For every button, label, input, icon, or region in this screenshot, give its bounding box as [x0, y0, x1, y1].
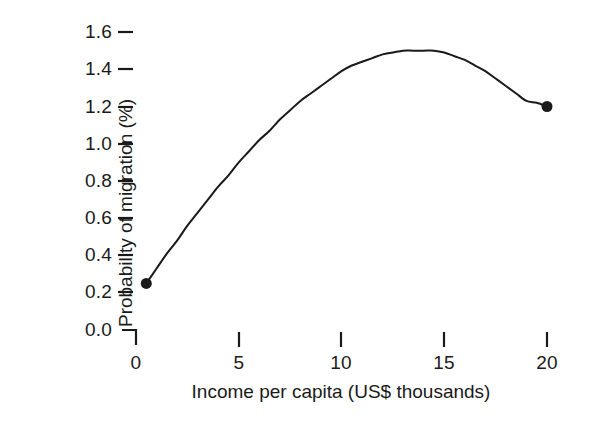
- x-tick-label-20: 20: [536, 352, 558, 374]
- end-point-marker: [542, 101, 553, 112]
- y-tick-label-0-8: 0.8: [64, 170, 112, 192]
- y-tick-label-0-0: 0.0: [64, 319, 112, 341]
- x-axis-title: Income per capita (US$ thousands): [192, 381, 491, 403]
- x-tick-label-5: 5: [234, 352, 245, 374]
- x-tick-label-15: 15: [433, 352, 455, 374]
- axis-corner-bracket: [122, 330, 136, 345]
- y-tick-label-1-0: 1.0: [64, 133, 112, 155]
- y-axis-title: Probability of migration (%): [115, 98, 137, 326]
- y-tick-label-0-6: 0.6: [64, 207, 112, 229]
- y-tick-label-0-4: 0.4: [64, 244, 112, 266]
- start-point-marker: [141, 278, 152, 289]
- x-tick-label-0: 0: [131, 352, 142, 374]
- y-tick-label-0-2: 0.2: [64, 281, 112, 303]
- y-tick-label-1-4: 1.4: [64, 58, 112, 80]
- x-tick-marks: [239, 332, 547, 347]
- y-tick-label-1-6: 1.6: [64, 21, 112, 43]
- y-tick-label-1-2: 1.2: [64, 96, 112, 118]
- migration-probability-curve: [146, 50, 547, 283]
- x-tick-label-10: 10: [330, 352, 352, 374]
- chart-figure: 1.6 1.4 1.2 1.0 0.8 0.6 0.4 0.2 0.0 0 5 …: [0, 0, 598, 425]
